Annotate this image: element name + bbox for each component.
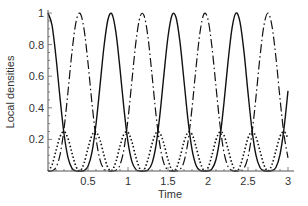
y-tick-label: 0.2 <box>29 133 44 145</box>
x-tick-label: 2.5 <box>240 175 255 187</box>
x-axis-label: Time <box>158 188 182 200</box>
y-tick-label: 0.8 <box>29 39 44 51</box>
x-tick-label: 1 <box>125 175 131 187</box>
y-tick-label: 1 <box>38 7 44 19</box>
line-chart: 0.20.40.60.810.511.522.53 Time Local den… <box>0 0 308 206</box>
x-tick-label: 2 <box>205 175 211 187</box>
x-tick-label: 0.5 <box>80 175 95 187</box>
series-solid <box>48 13 288 171</box>
series-dotted <box>48 132 288 172</box>
x-tick-label: 3 <box>285 175 291 187</box>
x-tick-label: 1.5 <box>160 175 175 187</box>
series-layer <box>48 13 288 171</box>
y-tick-label: 0.4 <box>29 102 44 114</box>
y-tick-label: 0.6 <box>29 70 44 82</box>
y-axis-label: Local densities <box>4 55 16 128</box>
plot-area: 0.20.40.60.810.511.522.53 <box>29 7 294 187</box>
